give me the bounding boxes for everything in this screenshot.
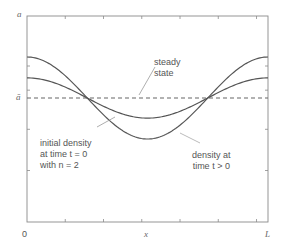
- diffusion-diagram: [0, 0, 282, 246]
- steady-state-leader: [139, 67, 155, 95]
- initial-density-leader: [97, 117, 115, 127]
- density-later-annotation: density at time t > 0: [192, 150, 231, 172]
- x-axis-zero-label: 0: [22, 229, 27, 240]
- y-axis-mean-label: ā: [16, 92, 21, 103]
- y-axis-top-label: a: [17, 9, 22, 20]
- steady-state-annotation: steady state: [154, 57, 181, 79]
- axis-ticks: [27, 16, 268, 222]
- density-later-leader: [180, 133, 200, 143]
- x-axis-length-label: L: [265, 229, 270, 240]
- x-axis-variable-label: x: [144, 229, 148, 240]
- initial-density-annotation: initial density at time t = 0 with n = 2: [40, 138, 92, 171]
- plot-frame: [27, 16, 268, 222]
